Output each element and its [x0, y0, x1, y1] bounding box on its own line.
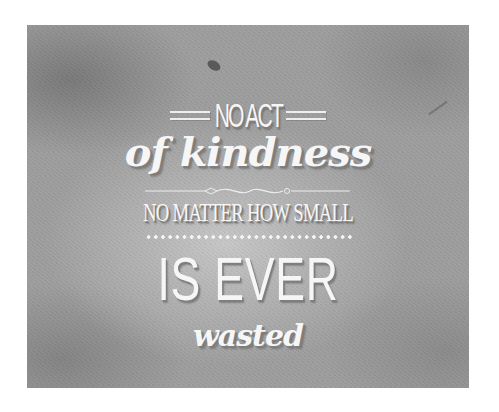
quote-line-is-ever: IS EVER	[89, 243, 407, 314]
double-rule-left-icon	[170, 111, 210, 120]
double-rule-right-icon	[286, 111, 326, 120]
quote-line-wasted: wasted	[27, 318, 469, 353]
quote-poster-image: NO ACT of kindness NO MATTER HOW SMALL I…	[27, 25, 469, 388]
quote-line-of-kindness: of kindness	[27, 128, 469, 175]
flourish-divider-icon	[145, 185, 350, 197]
dotted-divider-icon	[145, 235, 355, 239]
quote-line-no-matter-how-small: NO MATTER HOW SMALL	[89, 198, 407, 228]
